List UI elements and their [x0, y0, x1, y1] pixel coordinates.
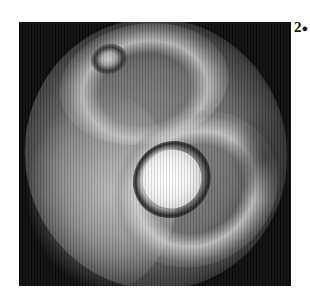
panel-label-cut: ● — [302, 22, 309, 34]
scan-image — [19, 22, 291, 286]
panel-label: 2● — [294, 19, 308, 36]
scanline-texture — [19, 22, 291, 286]
panel-label-number: 2 — [294, 19, 302, 35]
